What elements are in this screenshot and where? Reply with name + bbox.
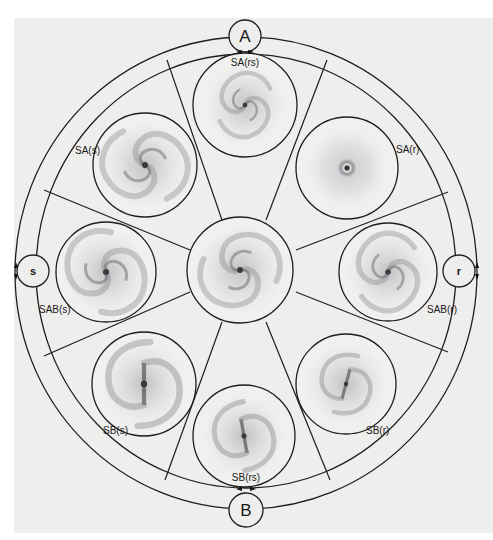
- galaxy-sa-r: [296, 117, 398, 219]
- label-sa-r: SA(r): [396, 144, 419, 155]
- label-sa-s: SA(s): [75, 145, 100, 156]
- label-sb-s: SB(s): [103, 425, 128, 436]
- galaxy-sb-r: [296, 334, 396, 434]
- diagram-canvas: A B s r SA(rs) SA(s) SA(r: [0, 0, 493, 540]
- galaxy-sb-s: [92, 332, 196, 436]
- pole-b-label: B: [240, 501, 251, 520]
- pole-s: s: [17, 255, 49, 287]
- galaxy-sab-r: [337, 221, 439, 323]
- galaxy-classification-diagram: A B s r SA(rs) SA(s) SA(r: [0, 0, 493, 540]
- pole-r-label: r: [457, 265, 462, 277]
- pole-b: B: [229, 493, 263, 527]
- galaxy-sa-rs: [193, 53, 297, 157]
- pole-r: r: [443, 255, 475, 287]
- label-sa-rs: SA(rs): [231, 57, 259, 68]
- label-sb-r: SB(r): [366, 425, 389, 436]
- pole-s-label: s: [30, 265, 36, 277]
- label-sab-r: SAB(r): [427, 304, 457, 315]
- pole-a-label: A: [239, 27, 251, 46]
- label-sb-rs: SB(rs): [232, 472, 260, 483]
- label-sab-s: SAB(s): [39, 304, 71, 315]
- galaxy-sa-s: [90, 110, 199, 220]
- galaxy-center: [187, 217, 293, 323]
- pole-a: A: [229, 20, 261, 52]
- galaxy-sab-s: [56, 222, 156, 322]
